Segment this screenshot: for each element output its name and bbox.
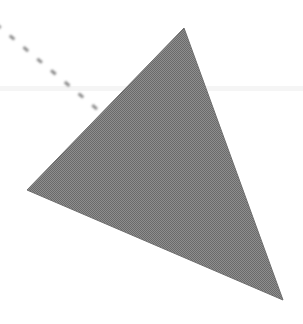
dashed-ray <box>0 24 104 115</box>
figure-svg <box>0 0 303 324</box>
figure-canvas <box>0 0 303 324</box>
triangle <box>27 28 283 300</box>
